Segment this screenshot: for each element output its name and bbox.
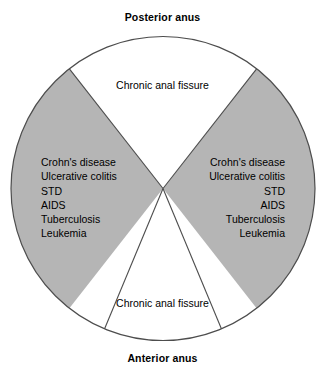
anterior-chronic-anal-fissure-label: Chronic anal fissure: [0, 297, 325, 310]
list-item: Crohn's disease: [41, 155, 117, 169]
anal-fissure-location-diagram: Posterior anus Chronic anal fissure Croh…: [0, 0, 325, 378]
left-lateral-condition-list: Crohn's disease Ulcerative colitis STD A…: [41, 155, 117, 241]
list-item: Leukemia: [209, 226, 285, 240]
list-item: STD: [41, 184, 117, 198]
list-item: Crohn's disease: [209, 155, 285, 169]
list-item: Tuberculosis: [209, 212, 285, 226]
anterior-anus-label: Anterior anus: [0, 352, 325, 364]
list-item: STD: [209, 184, 285, 198]
right-lateral-condition-list: Crohn's disease Ulcerative colitis STD A…: [209, 155, 285, 241]
posterior-chronic-anal-fissure-label: Chronic anal fissure: [0, 79, 325, 92]
list-item: AIDS: [209, 198, 285, 212]
list-item: Tuberculosis: [41, 212, 117, 226]
list-item: Ulcerative colitis: [209, 169, 285, 183]
list-item: AIDS: [41, 198, 117, 212]
list-item: Leukemia: [41, 226, 117, 240]
list-item: Ulcerative colitis: [41, 169, 117, 183]
